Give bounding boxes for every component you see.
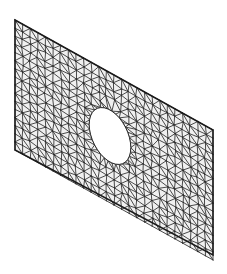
- figure-root: [0, 0, 227, 274]
- mesh-diagram: [0, 0, 227, 274]
